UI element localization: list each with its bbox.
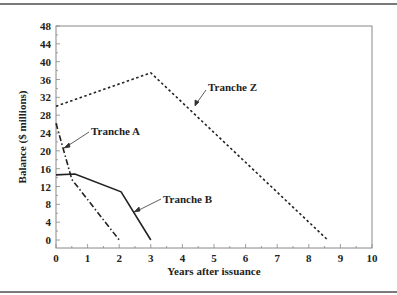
tranche-z-label: Tranche Z: [208, 81, 257, 93]
x-tick-label: 0: [53, 252, 59, 264]
tranche-b-label: Tranche B: [163, 193, 213, 205]
y-tick-label: 8: [46, 198, 52, 210]
y-tick-label: 48: [40, 20, 52, 32]
y-tick-label: 32: [40, 91, 52, 103]
y-tick-label: 12: [40, 181, 52, 193]
x-axis-ticks: 012345678910: [53, 244, 378, 264]
y-axis-title: Balance ($ millions): [16, 90, 29, 183]
x-tick-label: 7: [274, 252, 280, 264]
y-tick-label: 16: [40, 163, 52, 175]
x-tick-label: 4: [180, 252, 186, 264]
x-tick-label: 6: [243, 252, 249, 264]
series-lines: [56, 73, 328, 240]
x-tick-label: 9: [338, 252, 344, 264]
y-tick-label: 0: [46, 234, 52, 246]
tranche-a-label: Tranche A: [91, 125, 140, 137]
x-tick-label: 1: [85, 252, 91, 264]
y-tick-label: 40: [40, 56, 52, 68]
x-tick-label: 10: [367, 252, 379, 264]
y-tick-label: 44: [40, 38, 52, 50]
x-tick-label: 2: [116, 252, 122, 264]
x-axis-title: Years after issuance: [167, 265, 260, 277]
y-tick-label: 20: [40, 145, 52, 157]
tranche-balance-chart: 04812162024283236404448 012345678910 Tra…: [0, 0, 397, 295]
tranche-a-line: [56, 123, 119, 240]
x-tick-label: 8: [306, 252, 312, 264]
y-tick-label: 24: [40, 127, 52, 139]
x-tick-label: 5: [211, 252, 217, 264]
y-tick-label: 36: [40, 74, 52, 86]
y-axis-ticks: 04812162024283236404448: [40, 20, 60, 246]
plot-frame: [56, 26, 372, 248]
tranche-z-line: [56, 73, 328, 240]
tranche-b-line: [56, 174, 151, 240]
y-tick-label: 28: [40, 109, 52, 121]
x-tick-label: 3: [148, 252, 154, 264]
y-tick-label: 4: [46, 216, 52, 228]
